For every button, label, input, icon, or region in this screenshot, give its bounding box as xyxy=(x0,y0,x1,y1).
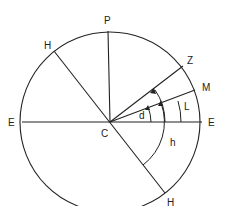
label-e-left: E xyxy=(8,117,15,128)
label-h-angle: h xyxy=(170,137,176,148)
label-h-lower: H xyxy=(167,197,174,206)
label-d: d xyxy=(139,110,145,121)
line-cz xyxy=(110,66,183,122)
angle-arc-l xyxy=(178,101,181,122)
line-cp xyxy=(108,31,110,122)
label-m: M xyxy=(202,82,210,93)
celestial-diagram: P H Z M E E H C d L h xyxy=(0,0,231,206)
label-p: P xyxy=(104,15,111,26)
label-h-upper: H xyxy=(44,40,51,51)
label-e-right: E xyxy=(208,117,215,128)
label-z: Z xyxy=(187,55,193,66)
line-cm xyxy=(110,90,195,122)
angle-arc-h xyxy=(143,103,164,165)
label-c: C xyxy=(101,128,108,139)
label-l: L xyxy=(184,101,190,112)
